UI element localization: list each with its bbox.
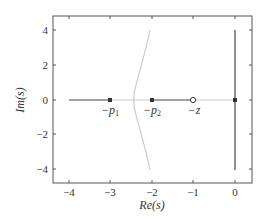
x-tick-label: −3 (104, 186, 116, 198)
y-axis-label: Im(s) (13, 87, 27, 113)
pole-marker-p1 (108, 98, 112, 102)
x-tick-label: 0 (232, 186, 238, 198)
root-locus-chart: −4 −3 −2 −1 0 4 2 0 −2 −4 Re(s) Im(s) −p… (0, 0, 265, 219)
zero-marker-z (190, 97, 195, 102)
x-tick-label: −1 (187, 186, 199, 198)
pole-label-p2: −p2 (143, 103, 161, 118)
pole-marker-p2 (150, 98, 154, 102)
zero-label-z: −z (188, 103, 201, 117)
x-tick-label: −2 (146, 186, 158, 198)
y-tick-label: 0 (43, 94, 49, 106)
y-tick-label: −4 (36, 163, 48, 175)
pole-marker-origin (233, 98, 237, 102)
x-tick-label: −4 (63, 186, 75, 198)
y-tick-label: −2 (36, 128, 48, 140)
x-axis-label: Re(s) (138, 198, 164, 212)
pole-label-p1: −p1 (101, 103, 119, 118)
y-tick-label: 2 (43, 59, 49, 71)
y-tick-label: 4 (43, 24, 49, 36)
